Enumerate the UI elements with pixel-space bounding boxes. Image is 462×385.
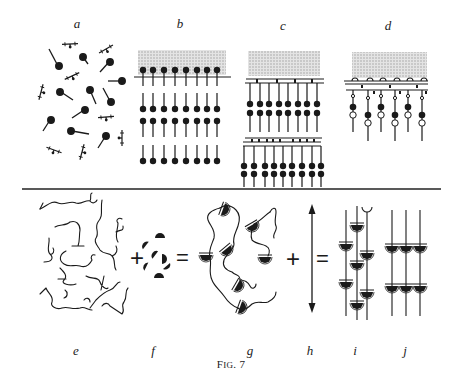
panel-label-i: i [353, 343, 357, 359]
panel-c-bridged-layers [241, 51, 324, 187]
caption-suffix: . 7 [233, 358, 245, 370]
panel-label-g: g [247, 343, 254, 359]
panel-label-j: j [403, 343, 407, 359]
panel-i-aligned-chains-staggered [339, 206, 374, 320]
panel-b-lipid-layers [134, 50, 231, 164]
panel-a-scattered-molecules [37, 42, 125, 161]
water-surface-shading [248, 51, 320, 76]
figure-7-diagram: + = + = [0, 0, 462, 385]
caption-smallcaps: IG [223, 360, 233, 370]
panel-label-d: d [385, 18, 392, 34]
panel-label-b: b [177, 16, 184, 32]
panel-label-h: h [307, 343, 314, 359]
panel-d-mixed-layers [344, 52, 428, 141]
panel-label-e: e [73, 343, 79, 359]
water-surface-shading [352, 52, 427, 78]
panel-e-random-chains [40, 193, 128, 314]
plus-operator-1: + [130, 244, 144, 271]
panel-label-c: c [280, 18, 286, 34]
equals-operator-2: = [316, 246, 329, 271]
equals-operator-1: = [176, 245, 189, 270]
plus-operator-2: + [286, 245, 300, 272]
panel-h-double-arrow-icon [309, 204, 316, 313]
panel-label-f: f [151, 343, 155, 359]
panel-g-chains-with-subunits [199, 202, 276, 316]
panel-label-a: a [74, 16, 81, 32]
panel-j-aligned-chains-registered [385, 210, 427, 316]
figure-caption: FIG. 7 [217, 358, 245, 370]
panel-f-free-subunits [141, 233, 171, 278]
